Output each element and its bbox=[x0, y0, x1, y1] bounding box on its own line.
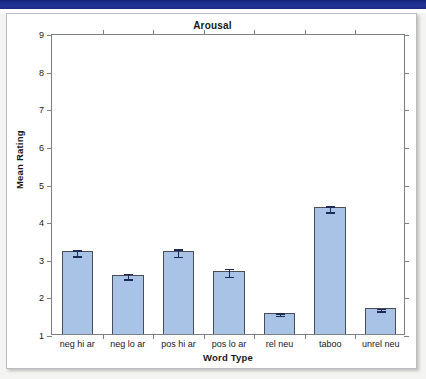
y-axis-tick bbox=[47, 148, 52, 149]
y-axis-tick bbox=[47, 186, 52, 187]
y-axis-label: Mean Rating bbox=[14, 130, 25, 189]
header-band bbox=[0, 0, 426, 9]
y-axis-tick-label: 8 bbox=[39, 68, 44, 78]
error-bar-cap-bottom bbox=[276, 316, 285, 318]
x-axis-category-label: rel neu bbox=[266, 339, 294, 349]
plot-frame: 123456789 neg hi arneg lo arpos hi arpos… bbox=[51, 34, 405, 335]
bar bbox=[62, 251, 93, 334]
x-axis-category-label: neg lo ar bbox=[110, 339, 145, 349]
y-axis-tick-label: 7 bbox=[39, 105, 44, 115]
y-axis-tick bbox=[47, 110, 52, 111]
y-axis-tick-right bbox=[404, 336, 409, 337]
y-axis-tick-right bbox=[404, 186, 409, 187]
y-axis-tick bbox=[47, 298, 52, 299]
x-axis-tick-top bbox=[305, 30, 306, 35]
error-bar-cap-bottom bbox=[174, 257, 183, 259]
error-bar-cap-bottom bbox=[225, 277, 234, 279]
bar bbox=[112, 275, 143, 334]
y-axis-tick-right bbox=[404, 223, 409, 224]
y-axis-tick bbox=[47, 73, 52, 74]
y-axis-tick-label: 4 bbox=[39, 218, 44, 228]
error-bar-cap-bottom bbox=[377, 311, 386, 313]
x-axis-tick bbox=[355, 334, 356, 339]
y-axis-tick-label: 2 bbox=[39, 293, 44, 303]
y-axis-tick-label: 3 bbox=[39, 256, 44, 266]
x-axis-tick bbox=[204, 334, 205, 339]
error-bar-cap-top bbox=[326, 206, 335, 208]
y-axis-tick bbox=[47, 336, 52, 337]
y-axis-tick-label: 6 bbox=[39, 143, 44, 153]
error-bar-cap-bottom bbox=[73, 256, 82, 258]
y-axis-tick-right bbox=[404, 110, 409, 111]
x-axis-category-label: unrel neu bbox=[362, 339, 400, 349]
y-axis-tick-right bbox=[404, 298, 409, 299]
y-axis-tick bbox=[47, 35, 52, 36]
x-axis-tick-top bbox=[254, 30, 255, 35]
y-axis-tick-label: 5 bbox=[39, 181, 44, 191]
x-axis-tick-top bbox=[355, 30, 356, 35]
y-axis-tick-right bbox=[404, 73, 409, 74]
y-axis-tick-right bbox=[404, 148, 409, 149]
x-axis-tick bbox=[153, 334, 154, 339]
page-root: Arousal Mean Rating 123456789 neg hi arn… bbox=[0, 0, 426, 379]
bar bbox=[213, 271, 244, 334]
x-axis-category-label: neg hi ar bbox=[60, 339, 95, 349]
error-bar-cap-top bbox=[124, 274, 133, 276]
figure-card: Arousal Mean Rating 123456789 neg hi arn… bbox=[6, 13, 417, 369]
bar-chart-figure: Arousal Mean Rating 123456789 neg hi arn… bbox=[7, 14, 418, 370]
plot-area: 123456789 neg hi arneg lo arpos hi arpos… bbox=[52, 35, 404, 334]
x-axis-tick bbox=[103, 334, 104, 339]
x-axis-tick bbox=[254, 334, 255, 339]
bar bbox=[163, 251, 194, 334]
x-axis-label: Word Type bbox=[51, 352, 405, 363]
error-bar-cap-top bbox=[174, 249, 183, 251]
y-axis-tick-right bbox=[404, 261, 409, 262]
error-bar-cap-top bbox=[225, 269, 234, 271]
x-axis-category-label: taboo bbox=[319, 339, 342, 349]
error-bar-cap-bottom bbox=[124, 279, 133, 281]
error-bar-cap-top bbox=[73, 250, 82, 252]
bar bbox=[314, 207, 345, 334]
error-bar-cap-bottom bbox=[326, 212, 335, 214]
y-axis-tick bbox=[47, 223, 52, 224]
x-axis-tick-top bbox=[103, 30, 104, 35]
y-axis-tick-label: 9 bbox=[39, 30, 44, 40]
x-axis-tick-top bbox=[153, 30, 154, 35]
y-axis-tick-right bbox=[404, 35, 409, 36]
x-axis-category-label: pos hi ar bbox=[161, 339, 196, 349]
x-axis-tick-top bbox=[204, 30, 205, 35]
y-axis-tick-label: 1 bbox=[39, 331, 44, 341]
x-axis-category-label: pos lo ar bbox=[212, 339, 247, 349]
y-axis-tick bbox=[47, 261, 52, 262]
x-axis-tick bbox=[305, 334, 306, 339]
